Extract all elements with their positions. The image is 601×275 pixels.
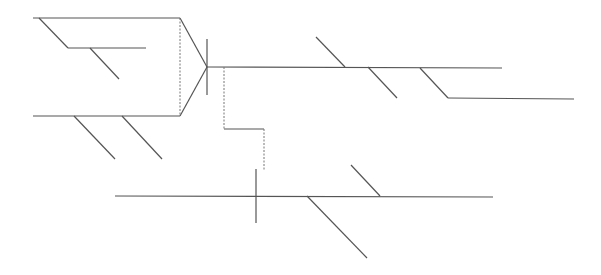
- bottom-left-diagonal-1-line: [74, 116, 115, 159]
- right-branch-horizontal-line: [448, 98, 574, 99]
- solid-lines: [33, 18, 574, 258]
- bottom-diagonal-up-line: [351, 165, 380, 196]
- top-left-diagonal-line: [39, 18, 68, 48]
- bottom-horizontal-line: [115, 196, 493, 197]
- bottom-diagonal-down-line: [307, 196, 367, 258]
- taper-upper-line: [180, 18, 207, 67]
- main-diagonal-2-line: [368, 67, 397, 98]
- main-horizontal-line: [207, 67, 502, 68]
- main-diagonal-1-line: [316, 37, 345, 67]
- top-left-inner-diagonal-line: [90, 48, 119, 79]
- main-diagonal-3-line: [420, 68, 448, 98]
- bottom-left-diagonal-2-line: [122, 116, 162, 159]
- line-diagram-canvas: [0, 0, 601, 275]
- taper-lower-line: [180, 67, 207, 116]
